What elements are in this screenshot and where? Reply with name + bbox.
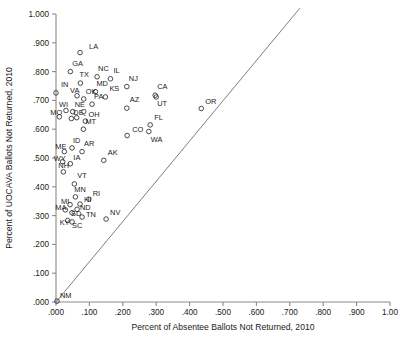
data-point-label: NH bbox=[58, 161, 69, 170]
data-point: FL bbox=[148, 113, 163, 127]
data-point: MA bbox=[55, 203, 67, 212]
data-point-marker bbox=[108, 77, 113, 82]
data-point-label: NM bbox=[60, 291, 72, 300]
scatter-plot-figure: .000.100.200.300.400.500.600.700.800.900… bbox=[0, 0, 410, 339]
data-point-marker bbox=[73, 195, 78, 200]
data-point-marker bbox=[68, 69, 73, 74]
data-point: IL bbox=[108, 66, 119, 81]
y-axis-title: Percent of UOCAVA Ballots Not Returned, … bbox=[4, 67, 14, 249]
data-point: NC bbox=[95, 64, 110, 79]
data-point-label: MT bbox=[85, 117, 96, 126]
data-point: SC bbox=[70, 220, 83, 230]
data-point-label: NV bbox=[110, 208, 120, 217]
data-point: NJ bbox=[125, 74, 139, 89]
data-point-marker bbox=[125, 84, 130, 89]
x-tick-label: .400 bbox=[182, 308, 198, 317]
data-point-label: FL bbox=[154, 113, 163, 122]
data-point-label: AK bbox=[108, 148, 118, 157]
data-point-marker bbox=[69, 116, 74, 121]
data-point-label: KY bbox=[60, 218, 70, 227]
x-tick-label: .600 bbox=[248, 308, 264, 317]
data-point-marker bbox=[104, 217, 109, 222]
data-point-label: KS bbox=[109, 84, 119, 93]
y-tick-label: .300 bbox=[33, 212, 49, 221]
y-tick-label: .900 bbox=[33, 39, 49, 48]
reference-diagonal-line bbox=[56, 8, 300, 302]
data-point-marker bbox=[80, 149, 85, 154]
x-tick-label: 1.00 bbox=[382, 308, 398, 317]
data-point-label: SC bbox=[72, 221, 83, 230]
x-tick-label: .200 bbox=[115, 308, 131, 317]
data-point-label: LA bbox=[89, 42, 98, 51]
x-tick-label: .100 bbox=[81, 308, 97, 317]
data-point-marker bbox=[125, 106, 130, 111]
data-point: ME bbox=[55, 142, 66, 154]
data-point: CO bbox=[125, 125, 144, 138]
data-point-label: TN bbox=[86, 210, 96, 219]
data-point-label: MD bbox=[96, 79, 108, 88]
data-point-marker bbox=[101, 158, 106, 163]
reference-line-group bbox=[56, 8, 300, 302]
data-point-marker bbox=[61, 170, 66, 175]
data-point: VA bbox=[70, 86, 79, 98]
data-point: IA bbox=[68, 153, 80, 166]
x-tick-label: .500 bbox=[215, 308, 231, 317]
data-point-label: MA bbox=[55, 203, 66, 212]
data-point-label: NC bbox=[98, 64, 109, 73]
x-tick-label: .800 bbox=[315, 308, 331, 317]
data-point-label: CA bbox=[157, 82, 167, 91]
data-point-marker bbox=[90, 102, 95, 107]
data-point: AK bbox=[101, 148, 117, 162]
data-point-label: IN bbox=[61, 80, 68, 89]
x-tick-label: .000 bbox=[48, 308, 64, 317]
data-point: KY bbox=[60, 218, 70, 227]
data-point-label: AZ bbox=[130, 95, 140, 104]
data-point-marker bbox=[78, 50, 83, 55]
y-tick-label: 1.000 bbox=[29, 10, 50, 19]
y-tick-label: .000 bbox=[33, 298, 49, 307]
data-point-label: GA bbox=[72, 59, 83, 68]
y-tick-label: .200 bbox=[33, 240, 49, 249]
data-point: NH bbox=[58, 161, 69, 174]
data-points-group: LAGANCILTXNJINMDKSCAUTVAOKAZPAORWINEMODE… bbox=[50, 42, 216, 304]
data-point-label: ME bbox=[55, 142, 66, 151]
x-tick-label: .300 bbox=[148, 308, 164, 317]
data-point-label: UT bbox=[157, 99, 167, 108]
data-point-marker bbox=[125, 133, 130, 138]
data-point-marker bbox=[70, 146, 75, 151]
x-axis-ticks: .000.100.200.300.400.500.600.700.800.900… bbox=[48, 302, 398, 317]
data-point-marker bbox=[81, 127, 86, 132]
data-point-label: CO bbox=[132, 125, 143, 134]
data-point-label: MN bbox=[74, 185, 86, 194]
y-tick-label: .800 bbox=[33, 68, 49, 77]
data-point: UT bbox=[154, 95, 168, 108]
data-point-label: Q bbox=[81, 107, 87, 116]
data-point-label: NJ bbox=[129, 74, 138, 83]
x-axis-title: Percent of Absentee Ballots Not Returned… bbox=[132, 322, 315, 332]
data-point-label: VA bbox=[70, 86, 79, 95]
data-point-marker bbox=[148, 123, 153, 128]
y-tick-label: .600 bbox=[33, 125, 49, 134]
y-tick-label: .400 bbox=[33, 183, 49, 192]
axes-group bbox=[56, 14, 390, 302]
data-point: ID bbox=[70, 136, 81, 150]
data-point: AR bbox=[80, 139, 95, 154]
data-point-label: AR bbox=[84, 139, 94, 148]
data-point: NV bbox=[104, 208, 121, 221]
y-tick-label: .100 bbox=[33, 269, 49, 278]
data-point-marker bbox=[147, 129, 152, 134]
y-tick-label: .500 bbox=[33, 154, 49, 163]
data-point-label: IA bbox=[73, 153, 80, 162]
data-point-label: TX bbox=[79, 70, 89, 79]
data-point-label: IL bbox=[113, 66, 119, 75]
data-point-label: ID bbox=[73, 136, 80, 145]
data-point-label: OR bbox=[205, 97, 216, 106]
data-point-label: VT bbox=[77, 171, 87, 180]
data-point-marker bbox=[78, 81, 83, 86]
data-point: LA bbox=[78, 42, 98, 55]
data-point-marker bbox=[103, 95, 108, 100]
y-axis-ticks: .000.100.200.300.400.500.600.700.800.900… bbox=[29, 10, 57, 307]
data-point-label: RI bbox=[93, 189, 100, 198]
data-point: WA bbox=[147, 129, 163, 143]
chart-canvas: .000.100.200.300.400.500.600.700.800.900… bbox=[0, 0, 410, 339]
